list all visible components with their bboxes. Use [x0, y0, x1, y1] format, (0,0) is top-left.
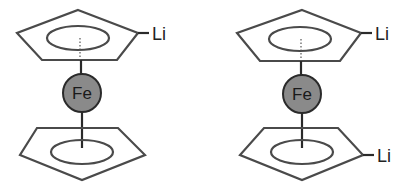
li-label-bottom: Li — [377, 146, 391, 166]
li-label-top: Li — [375, 24, 389, 44]
li-label-top: Li — [152, 24, 166, 44]
top-cyclopentadienyl-ring — [237, 10, 361, 61]
diagram-canvas: Li Fe Li Fe Li — [0, 0, 409, 190]
fe-label: Fe — [292, 85, 312, 104]
top-aromatic-ellipse — [47, 26, 109, 50]
fe-label: Fe — [72, 84, 92, 103]
molecule-dilithioferrocene: Li Fe Li — [237, 10, 391, 180]
top-aromatic-ellipse — [269, 27, 331, 51]
top-cyclopentadienyl-ring — [17, 10, 138, 60]
molecule-monolithioferrocene: Li Fe — [17, 10, 166, 180]
